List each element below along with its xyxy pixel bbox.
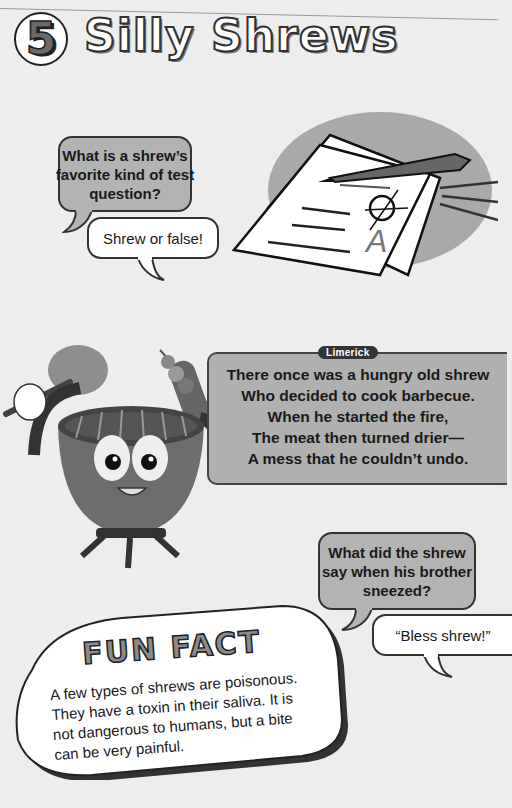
- section-number: 5: [26, 17, 57, 61]
- joke1-question-line: favorite kind of test: [56, 165, 194, 184]
- limerick-line: The meat then turned drier—: [209, 427, 507, 448]
- limerick-line: There once was a hungry old shrew: [209, 364, 507, 385]
- joke2-question-line: sneezed?: [322, 581, 472, 600]
- joke2-question-bubble: What did the shrew say when his brother …: [318, 532, 476, 610]
- joke2-question-line: What did the shrew: [322, 543, 472, 562]
- section-number-badge: 5: [14, 12, 68, 66]
- limerick-tag: Limerick: [318, 346, 378, 359]
- joke1-answer: Shrew or false!: [103, 230, 203, 247]
- joke1-question-bubble: What is a shrew’s favorite kind of test …: [58, 136, 192, 212]
- limerick-line: A mess that he couldn’t undo.: [209, 448, 507, 469]
- test-paper-pen-icon: A: [230, 90, 498, 280]
- joke1-question-line: question?: [56, 184, 194, 203]
- svg-text:A: A: [364, 223, 387, 259]
- joke1-answer-bubble: Shrew or false!: [87, 217, 219, 259]
- joke1-question-line: What is a shrew’s: [56, 146, 194, 165]
- page-title: Silly Shrews: [84, 10, 398, 61]
- limerick-box: There once was a hungry old shrew Who de…: [207, 352, 507, 485]
- limerick-line: Who decided to cook barbecue.: [209, 385, 507, 406]
- speech-tail-icon: [420, 653, 460, 681]
- speech-tail-icon: [128, 256, 168, 284]
- joke2-question-line: say when his brother: [322, 562, 472, 581]
- joke2-answer-bubble: “Bless shrew!”: [372, 614, 512, 656]
- limerick-line: When he started the fire,: [209, 406, 507, 427]
- joke2-answer: “Bless shrew!”: [395, 627, 490, 644]
